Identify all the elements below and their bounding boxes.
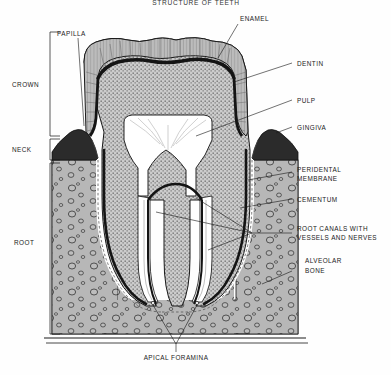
label-apical-foramina: APICAL FORAMINA	[144, 354, 209, 361]
tooth-anatomy-diagram: STRUCTURE OF TEETH	[0, 0, 391, 375]
label-neck: NECK	[12, 146, 32, 153]
label-root: ROOT	[14, 239, 34, 246]
alveolar-bone-right	[250, 160, 298, 334]
label-crown: CROWN	[12, 81, 39, 88]
alveolar-bone-left	[52, 160, 102, 334]
apical-foramen-right	[195, 301, 198, 304]
label-alveolar-line1: ALVEOLAR	[305, 257, 342, 264]
label-cementum: CEMENTUM	[297, 196, 338, 203]
label-rootcanals-line2: VESSELS AND NERVES	[297, 234, 377, 241]
diagram-canvas: STRUCTURE OF TEETH	[0, 0, 391, 375]
label-alveolar-line2: BONE	[305, 267, 325, 274]
label-pulp: PULP	[297, 97, 316, 104]
diagram-title: STRUCTURE OF TEETH	[152, 0, 240, 6]
apical-foramen-left	[151, 301, 154, 304]
label-peridental-line1: PERIDENTAL	[297, 166, 341, 173]
label-gingiva: GINGIVA	[297, 124, 327, 131]
label-enamel: ENAMEL	[240, 15, 269, 22]
label-papilla: PAPILLA	[57, 30, 86, 37]
label-peridental-line2: MEMBRANE	[297, 175, 338, 182]
label-rootcanals-line1: ROOT CANALS WITH	[297, 225, 368, 232]
label-dentin: DENTIN	[297, 60, 324, 67]
